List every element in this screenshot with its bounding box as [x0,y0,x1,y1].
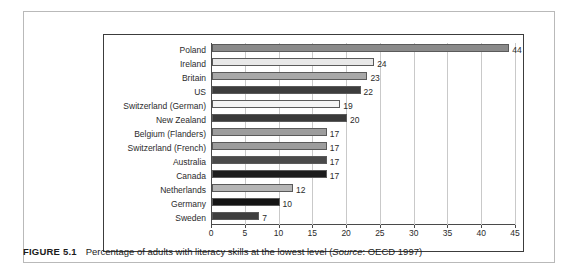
category-label: Ireland [180,60,206,69]
bar [212,100,340,108]
bar-value-label: 7 [262,214,267,223]
bar-row: Sweden7 [211,211,515,225]
bar-value-label: 12 [296,186,305,195]
category-label: Germany [171,200,206,209]
category-label: Canada [176,172,206,181]
category-label: US [194,88,206,97]
bar [212,72,367,80]
bar-value-label: 17 [330,144,339,153]
figure-number: FIGURE 5.1 [23,246,77,257]
x-tick-label-5: 5 [242,229,247,238]
bar [212,128,327,136]
bar [212,114,347,122]
bar-row: Belgium (Flanders)17 [211,127,515,141]
category-label: Britain [182,74,206,83]
bar [212,212,259,220]
bar-row: Ireland24 [211,57,515,71]
x-tick-label-0: 0 [209,229,214,238]
category-label: Switzerland (French) [128,144,206,153]
bar [212,142,327,150]
bar-row: Germany10 [211,197,515,211]
figure-chart-box: Poland44Ireland24Britain23US22Switzerlan… [103,34,524,252]
bar-chart: Poland44Ireland24Britain23US22Switzerlan… [104,35,523,251]
bar-row: Britain23 [211,71,515,85]
bar-value-label: 17 [330,130,339,139]
bar [212,44,509,52]
bar-value-label: 22 [364,88,373,97]
caption-text-pre: Percentage of adults with literacy skill… [86,246,333,257]
bar-row: Netherlands12 [211,183,515,197]
category-label: New Zealand [156,116,206,125]
bar [212,86,361,94]
bar-row: Switzerland (German)19 [211,99,515,113]
x-tick-label-40: 40 [476,229,485,238]
bar-value-label: 20 [350,116,359,125]
bar-row: Poland44 [211,43,515,57]
bar-value-label: 19 [343,102,352,111]
category-label: Netherlands [160,186,206,195]
bar-value-label: 24 [377,60,386,69]
category-label: Poland [180,46,206,55]
x-tick-label-25: 25 [375,229,384,238]
page-border: Poland44Ireland24Britain23US22Switzerlan… [23,11,555,263]
category-label: Switzerland (German) [123,102,206,111]
x-tick-label-35: 35 [443,229,452,238]
x-tick-label-20: 20 [341,229,350,238]
bar [212,58,374,66]
bar-row: US22 [211,85,515,99]
x-tick-label-30: 30 [409,229,418,238]
bar-value-label: 17 [330,158,339,167]
bar-row: Switzerland (French)17 [211,141,515,155]
category-label: Belgium (Flanders) [134,130,206,139]
bar [212,170,327,178]
bar-value-label: 23 [370,74,379,83]
bar [212,184,293,192]
bar-row: Australia17 [211,155,515,169]
caption-text-post: : OECD 1997) [362,246,422,257]
x-tick-label-15: 15 [308,229,317,238]
category-label: Australia [173,158,206,167]
gridline-45 [515,43,516,225]
bar [212,198,280,206]
plot-area: Poland44Ireland24Britain23US22Switzerlan… [211,43,515,225]
bar-value-label: 10 [283,200,292,209]
bar-row: New Zealand20 [211,113,515,127]
figure-caption: FIGURE 5.1Percentage of adults with lite… [23,246,563,258]
bar-row: Canada17 [211,169,515,183]
x-tick-label-10: 10 [274,229,283,238]
caption-source-word: Source [332,246,362,257]
bar [212,156,327,164]
x-tick-label-45: 45 [510,229,519,238]
category-label: Sweden [175,214,206,223]
bar-value-label: 17 [330,172,339,181]
bar-value-label: 44 [512,46,521,55]
